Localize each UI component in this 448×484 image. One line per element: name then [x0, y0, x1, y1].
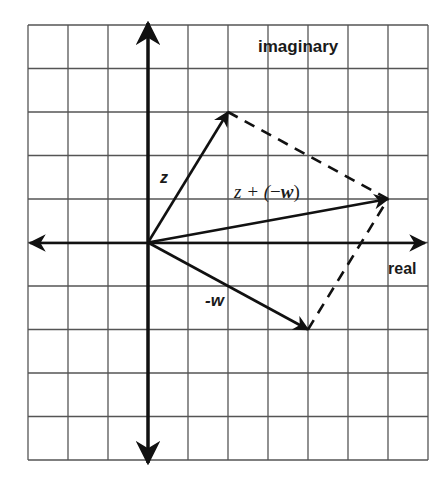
sum-label-suffix: )	[293, 181, 299, 203]
real-axis-label: real	[388, 260, 416, 277]
sum-label-prefix: z + (	[233, 181, 272, 203]
sum-label-minus: −	[270, 181, 281, 202]
complex-plane-diagram: imaginary real z -w z + (−w)	[0, 0, 448, 484]
vector-neg-w-label: -w	[205, 291, 226, 310]
sum-label-w: w	[281, 181, 294, 202]
vector-z-label: z	[159, 169, 168, 186]
diagram-canvas: imaginary real z -w z + (−w)	[0, 0, 448, 484]
vector-sum-label: z + (−w)	[233, 181, 300, 203]
imaginary-axis-label: imaginary	[258, 37, 339, 56]
